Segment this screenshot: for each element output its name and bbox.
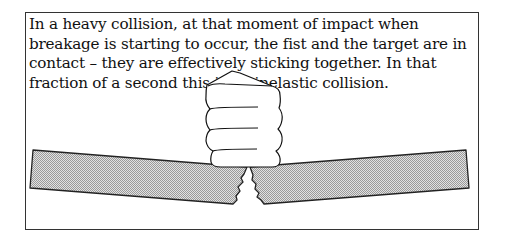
fist: [206, 71, 282, 167]
board-right-half: [250, 150, 469, 204]
illustration: [0, 0, 505, 242]
